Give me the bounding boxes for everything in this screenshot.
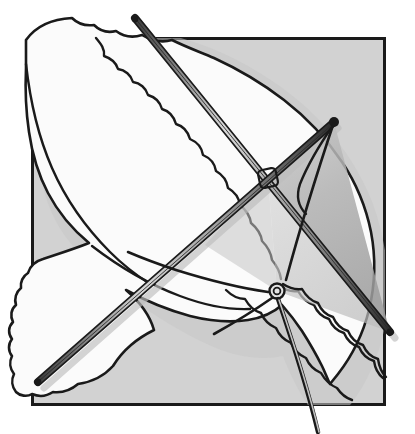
bridle-knot-core bbox=[270, 284, 285, 299]
spar-tip-bottom-left bbox=[35, 379, 42, 386]
illustration-root bbox=[0, 0, 415, 434]
bridle-knot bbox=[270, 284, 285, 299]
kite-and-bird-illustration bbox=[0, 0, 415, 434]
spar-tip-bottom-right bbox=[387, 329, 394, 336]
spar-tip-top-left bbox=[132, 16, 139, 23]
